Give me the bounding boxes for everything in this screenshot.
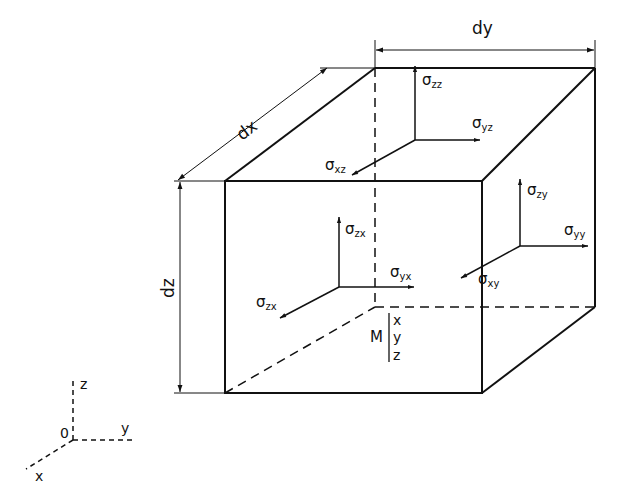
sigma-yy-label: σyy — [564, 221, 585, 240]
x-axis — [26, 440, 73, 469]
sigma-zx-left-label: σzx — [256, 293, 277, 312]
sigma-xy-arrow — [461, 246, 520, 278]
stress-cube-diagram: dy dx dz σzz σyz σxz σzx σyx σzx M x y z — [0, 0, 618, 497]
point-m-z: z — [393, 347, 400, 363]
dimension-dz — [174, 182, 225, 393]
coordinate-axes — [26, 380, 134, 469]
sigma-xy-label: σxy — [478, 270, 499, 289]
point-m-label: M x y z — [370, 312, 401, 363]
sigma-zy-label: σzy — [527, 181, 548, 200]
bottom-right-edge — [482, 307, 595, 393]
sigma-yz-label: σyz — [472, 114, 493, 133]
dx-label: dx — [232, 116, 261, 145]
sigma-zx-top-label: σzx — [345, 220, 366, 239]
cube-hidden-edges — [225, 68, 595, 393]
point-m-x: x — [393, 312, 401, 328]
dz-label: dz — [158, 278, 178, 298]
axis-z-label: z — [80, 376, 87, 392]
cube-visible-edges — [225, 68, 595, 393]
axis-origin-label: 0 — [60, 425, 69, 441]
sigma-xz-arrow — [352, 140, 415, 175]
sigma-zx-diagonal-arrow — [280, 287, 339, 318]
dy-label: dy — [472, 18, 493, 38]
dimension-dy — [375, 40, 595, 68]
sigma-yx-label: σyx — [390, 263, 411, 282]
sigma-xz-label: σxz — [325, 156, 346, 175]
top-face-stresses — [352, 66, 480, 175]
point-m-y: y — [393, 329, 401, 345]
hidden-bottom-left-edge — [225, 307, 375, 393]
point-m-name: M — [370, 328, 383, 346]
sigma-zz-label: σzz — [422, 71, 442, 90]
axis-x-label: x — [35, 468, 43, 484]
top-right-edge — [482, 68, 595, 181]
axis-y-label: y — [121, 420, 129, 436]
